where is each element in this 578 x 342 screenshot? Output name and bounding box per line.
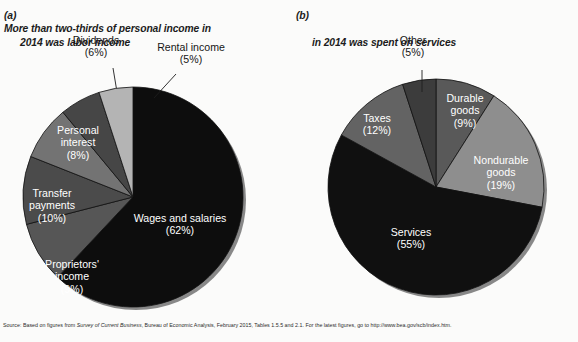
- source-suffix: , Bureau of Economic Analysis, February …: [142, 322, 452, 328]
- source-publication-title: Survey of Current Business: [77, 322, 142, 328]
- pie-label-taxes: Taxes(12%): [363, 112, 391, 136]
- figure-page: (a) More than two-thirds of personal inc…: [0, 0, 578, 342]
- source-note: Source: Based on figures from Survey of …: [3, 322, 575, 329]
- pie-label-other: Other(5%): [400, 34, 427, 58]
- pie-label-dividends: Dividends(6%): [73, 34, 120, 58]
- pie-chart-b-svg: Durablegoods(9%)Nondurablegoods(19%)Serv…: [289, 0, 578, 316]
- source-prefix: Source: Based on figures from: [3, 322, 77, 328]
- pie-chart-a-svg: Wages and salaries(62%)Proprietors'incom…: [0, 0, 289, 316]
- pie-chart-personal-consumption: Durablegoods(9%)Nondurablegoods(19%)Serv…: [289, 0, 578, 316]
- pie-chart-personal-income: Wages and salaries(62%)Proprietors'incom…: [0, 0, 289, 316]
- pie-label-rental-income: Rental income(5%): [157, 41, 225, 65]
